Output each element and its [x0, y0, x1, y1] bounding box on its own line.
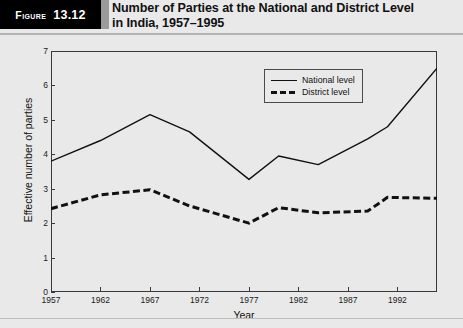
chart-legend: National level District level [264, 69, 363, 103]
figure-word-label: Figure [15, 9, 46, 21]
y-tick-label: 4 [34, 150, 48, 158]
y-tick-mark [51, 85, 55, 86]
x-axis-title: Year [51, 309, 437, 321]
legend-label-national: National level [302, 75, 355, 85]
chart-container: 01234567 1957196219671972197719821987199… [0, 36, 463, 304]
x-tick-label: 1987 [328, 295, 368, 305]
x-tick-label: 1972 [179, 295, 219, 305]
header-divider [0, 33, 463, 35]
legend-item-district: District level [271, 86, 355, 98]
y-tick-mark [51, 51, 55, 52]
x-tick-label: 1982 [278, 295, 318, 305]
figure-banner: Figure 13.12 [0, 0, 101, 29]
y-axis-title: Effective number of parties [22, 70, 34, 250]
figure-number-label: 13.12 [53, 8, 85, 22]
figure-title-line-2: in India, 1957–1995 [112, 16, 460, 31]
y-tick-label: 2 [34, 219, 48, 227]
x-tick-label: 1962 [80, 295, 120, 305]
legend-label-district: District level [302, 87, 349, 97]
y-tick-label: 6 [34, 81, 48, 89]
x-tick-label: 1977 [229, 295, 269, 305]
y-tick-label: 1 [34, 254, 48, 262]
x-tick-label: 1992 [377, 295, 417, 305]
x-tick-label: 1967 [130, 295, 170, 305]
figure-title: Number of Parties at the National and Di… [112, 1, 460, 31]
y-tick-mark [51, 292, 55, 293]
series-line-national [51, 68, 437, 179]
legend-item-national: National level [271, 74, 355, 86]
y-tick-label: 3 [34, 185, 48, 193]
x-tick-label: 1957 [31, 295, 71, 305]
series-line-district [51, 190, 437, 223]
y-tick-label: 5 [34, 116, 48, 124]
banner-gray-strip [101, 0, 109, 29]
figure-header: Figure 13.12 Number of Parties at the Na… [0, 0, 463, 36]
y-tick-mark [51, 189, 55, 190]
figure-title-line-1: Number of Parties at the National and Di… [112, 1, 460, 16]
y-tick-mark [51, 223, 55, 224]
x-axis-ticks: 19571962196719721977198219871992 [51, 292, 437, 306]
y-tick-mark [51, 120, 55, 121]
footer-divider [0, 318, 463, 319]
chart-plot-lines [51, 51, 437, 292]
y-tick-label: 7 [34, 47, 48, 55]
y-tick-mark [51, 154, 55, 155]
y-tick-mark [51, 258, 55, 259]
dashed-line-icon [271, 87, 297, 97]
solid-line-icon [271, 75, 297, 85]
